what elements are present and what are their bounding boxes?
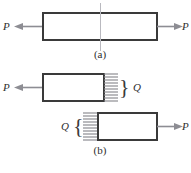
brace-lower: { bbox=[73, 115, 84, 137]
bar-b-lower bbox=[97, 112, 158, 141]
stress-hatching-upper bbox=[104, 72, 119, 103]
stress-hatching-lower bbox=[83, 111, 98, 142]
force-arrow-right-b bbox=[157, 122, 183, 131]
force-arrow-left-b bbox=[14, 83, 43, 92]
bar-b-upper bbox=[42, 73, 105, 102]
force-arrow-left-a bbox=[14, 22, 43, 31]
panel-caption-a: (a) bbox=[82, 49, 118, 60]
internal-force-label-upper: Q bbox=[133, 82, 141, 93]
force-label-left-a: P bbox=[3, 21, 10, 32]
brace-upper: } bbox=[119, 76, 130, 98]
force-label-right-b: P bbox=[182, 121, 189, 132]
panel-caption-b: (b) bbox=[82, 145, 118, 156]
cut-plane-line-a bbox=[100, 3, 101, 51]
force-arrow-right-a bbox=[157, 22, 183, 31]
internal-force-label-lower: Q bbox=[61, 121, 69, 132]
force-label-right-a: P bbox=[182, 21, 189, 32]
figure-container: P P (a) P bbox=[0, 0, 191, 173]
force-label-left-b: P bbox=[3, 82, 10, 93]
